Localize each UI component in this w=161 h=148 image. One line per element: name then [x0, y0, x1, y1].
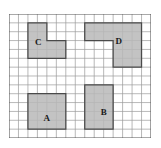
region-d-label: D	[114, 37, 123, 46]
region-a-label: A	[42, 114, 51, 123]
grid-container: CDAB	[9, 14, 151, 138]
grid-figure: CDAB	[0, 0, 161, 148]
region-c-label: C	[34, 38, 43, 47]
region-b-label: B	[99, 108, 108, 117]
region-labels-layer: CDAB	[9, 14, 151, 138]
